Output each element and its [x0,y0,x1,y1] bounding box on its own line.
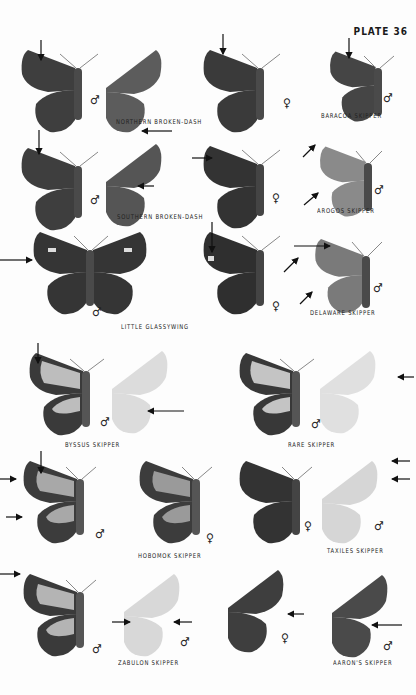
female-symbol: ♀ [283,97,291,109]
male-symbol: ♂ [180,636,190,648]
little-glassywing-female [190,228,270,328]
species-label-arogos-skipper: AROGOS SKIPPER [317,207,375,215]
byssus-skipper-male-upperside [0,345,110,445]
male-symbol: ♂ [92,643,102,655]
baracoa-skipper-male-upperside [318,40,398,140]
male-symbol: ♂ [90,94,100,106]
species-label-zabulon-skipper: ZABULON SKIPPER [118,659,179,667]
species-label-aarons-skipper: AARON'S SKIPPER [333,659,392,667]
zabulon-skipper-female-underside [228,570,308,670]
male-symbol: ♂ [95,528,105,540]
southern-broken-dash-male-upperside [0,140,110,240]
female-symbol: ♀ [272,300,280,312]
male-symbol: ♂ [311,418,321,430]
rare-skipper-male-underside [318,345,416,445]
taxiles-skipper-male-underside [320,455,416,555]
species-label-rare-skipper: RARE SKIPPER [288,441,335,449]
male-symbol: ♂ [90,194,100,206]
female-symbol: ♀ [206,532,214,544]
female-symbol: ♀ [304,520,312,532]
male-symbol: ♂ [373,282,383,294]
hobomok-skipper-male [0,455,110,555]
zabulon-skipper-male-underside [112,570,202,670]
species-label-byssus-skipper: BYSSUS SKIPPER [65,441,120,449]
male-symbol: ♂ [374,184,384,196]
female-symbol: ♀ [281,632,289,644]
male-symbol: ♂ [383,640,393,652]
species-label-little-glassywing: LITTLE GLASSYWING [121,323,189,331]
byssus-skipper-male-underside [110,345,200,445]
taxiles-skipper-female [220,455,310,555]
male-symbol: ♂ [383,92,393,104]
northern-broken-dash-male-upperside [0,40,110,140]
field-guide-plate: PLATE 36 [0,0,416,695]
hobomok-skipper-female [120,455,210,555]
little-glassywing-male [20,228,160,328]
species-label-delaware-skipper: DELAWARE SKIPPER [310,309,376,317]
male-symbol: ♂ [374,520,384,532]
northern-broken-dash-female-upperside [190,40,270,140]
male-symbol: ♂ [92,306,102,318]
female-symbol: ♀ [272,192,280,204]
plate-title: PLATE 36 [354,26,408,37]
species-label-hobomok-skipper: HOBOMOK SKIPPER [138,552,201,560]
male-symbol: ♂ [100,416,110,428]
species-label-taxiles-skipper: TAXILES SKIPPER [327,547,384,555]
southern-broken-dash-female-upperside [190,138,270,238]
species-label-baracoa-skipper: BARACOA SKIPPER [321,112,382,120]
rare-skipper-male-upperside [210,345,320,445]
